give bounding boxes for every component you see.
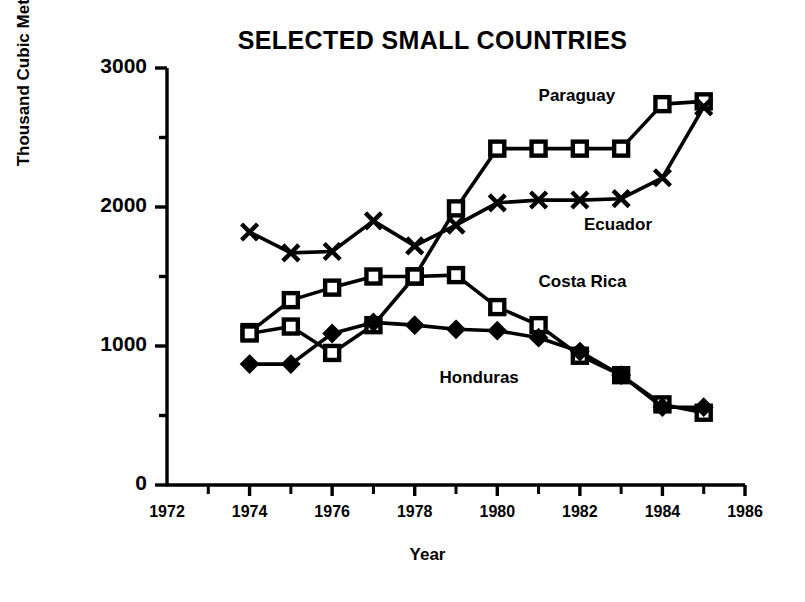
series-label-costa-rica: Costa Rica — [539, 272, 627, 292]
x-tick-label: 1984 — [634, 503, 690, 521]
y-tick-label: 1000 — [67, 332, 147, 356]
y-ticks — [155, 68, 167, 485]
series-honduras — [241, 314, 712, 416]
y-tick-label: 2000 — [67, 193, 147, 217]
chart-figure: SELECTED SMALL COUNTRIES Thousand Cubic … — [0, 0, 805, 602]
series-label-paraguay: Paraguay — [539, 86, 616, 106]
x-tick-label: 1978 — [387, 503, 443, 521]
series-costa-rica — [243, 268, 711, 420]
series-label-ecuador: Ecuador — [584, 215, 652, 235]
x-tick-label: 1972 — [139, 503, 195, 521]
x-tick-label: 1974 — [222, 503, 278, 521]
x-tick-label: 1980 — [469, 503, 525, 521]
x-tick-label: 1976 — [304, 503, 360, 521]
x-tick-label: 1986 — [717, 503, 773, 521]
x-tick-label: 1982 — [552, 503, 608, 521]
y-tick-label: 0 — [67, 471, 147, 495]
y-tick-label: 3000 — [67, 54, 147, 78]
series-label-honduras: Honduras — [439, 368, 518, 388]
